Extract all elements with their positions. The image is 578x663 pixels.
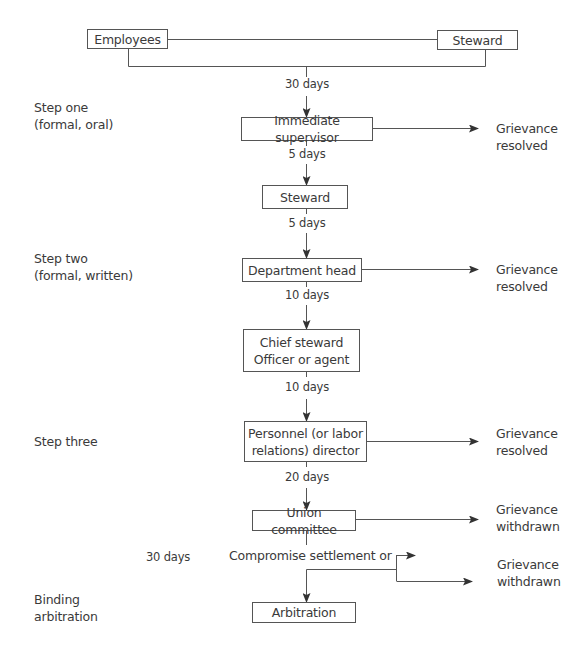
binding-arbitration-label: Binding arbitration xyxy=(34,591,98,625)
outcome-withdrawn-compromise: Grievance withdrawn xyxy=(497,556,561,590)
outcome-withdrawn-union-committee: Grievance withdrawn xyxy=(496,501,560,535)
step-two-title: Step two xyxy=(34,251,88,266)
time-limit-to-supervisor: 30 days xyxy=(285,76,329,93)
node-personnel-line1: Personnel (or labor xyxy=(248,425,363,442)
node-steward-top-label: Steward xyxy=(453,32,503,49)
outcome-withdrawn-2-line1: Grievance xyxy=(497,557,559,572)
step-one-title: Step one xyxy=(34,100,88,115)
outcome-resolved-3-line2: resolved xyxy=(496,443,548,458)
step-two-subtitle: (formal, written) xyxy=(34,268,133,283)
step-two-label: Step two (formal, written) xyxy=(34,250,133,284)
outcome-resolved-step-two: Grievance resolved xyxy=(496,261,558,295)
node-steward-label: Steward xyxy=(280,189,330,206)
outcome-resolved-1-line2: resolved xyxy=(496,138,548,153)
node-steward: Steward xyxy=(262,185,348,209)
node-arbitration-label: Arbitration xyxy=(272,604,337,621)
node-union-committee-label: Union committee xyxy=(253,504,355,538)
step-one-label: Step one (formal, oral) xyxy=(34,99,113,133)
node-chief-steward: Chief steward Officer or agent xyxy=(243,329,360,372)
outcome-resolved-step-one: Grievance resolved xyxy=(496,120,558,154)
time-limit-to-personnel: 10 days xyxy=(285,379,329,396)
outcome-resolved-1-line1: Grievance xyxy=(496,121,558,136)
time-limit-to-department-head: 5 days xyxy=(289,215,326,232)
node-chief-steward-line1: Chief steward xyxy=(260,334,343,351)
binding-arbitration-title: Binding xyxy=(34,592,80,607)
binding-arbitration-subtitle: arbitration xyxy=(34,609,98,624)
grievance-flowchart: Employees Steward Step one (formal, oral… xyxy=(0,0,578,663)
outcome-resolved-3-line1: Grievance xyxy=(496,426,558,441)
node-arbitration: Arbitration xyxy=(252,602,356,623)
compromise-settlement-label: Compromise settlement or xyxy=(229,547,392,564)
outcome-withdrawn-1-line2: withdrawn xyxy=(496,519,560,534)
node-personnel-director: Personnel (or labor relations) director xyxy=(244,421,367,462)
node-union-committee: Union committee xyxy=(252,510,356,531)
time-limit-to-union-committee: 20 days xyxy=(285,469,329,486)
node-steward-top: Steward xyxy=(437,30,518,50)
node-department-head: Department head xyxy=(242,258,362,282)
node-department-head-label: Department head xyxy=(248,262,356,279)
step-one-subtitle: (formal, oral) xyxy=(34,117,113,132)
node-employees: Employees xyxy=(87,29,168,49)
node-chief-steward-line2: Officer or agent xyxy=(254,351,349,368)
time-limit-to-chief-steward: 10 days xyxy=(285,287,329,304)
time-limit-to-steward: 5 days xyxy=(289,146,326,163)
step-three-title: Step three xyxy=(34,434,98,449)
outcome-resolved-2-line1: Grievance xyxy=(496,262,558,277)
node-immediate-supervisor-label: Immediate supervisor xyxy=(242,112,372,146)
outcome-withdrawn-2-line2: withdrawn xyxy=(497,574,561,589)
outcome-resolved-2-line2: resolved xyxy=(496,279,548,294)
node-personnel-line2: relations) director xyxy=(252,442,360,459)
node-employees-label: Employees xyxy=(94,31,161,48)
time-limit-to-arbitration: 30 days xyxy=(146,549,190,566)
step-three-label: Step three xyxy=(34,433,98,450)
node-immediate-supervisor: Immediate supervisor xyxy=(241,117,373,141)
outcome-resolved-step-three: Grievance resolved xyxy=(496,425,558,459)
outcome-withdrawn-1-line1: Grievance xyxy=(496,502,558,517)
